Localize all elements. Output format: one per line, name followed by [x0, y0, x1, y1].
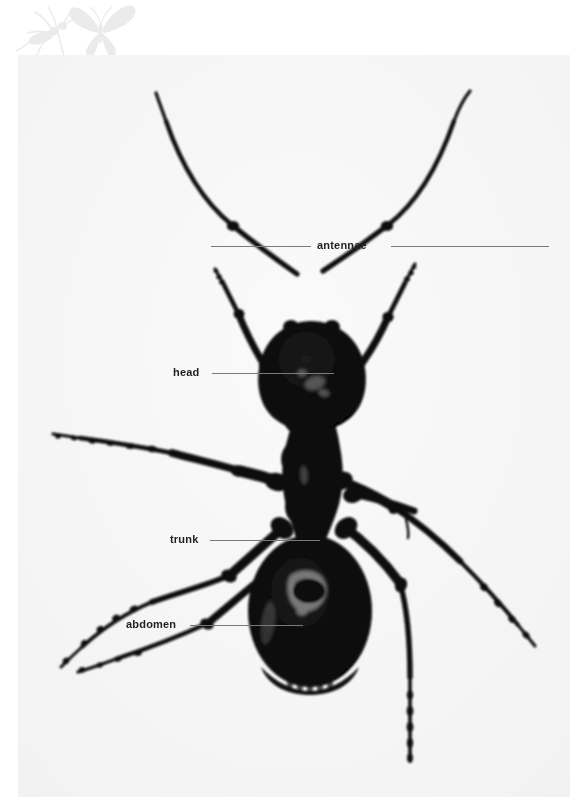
antennae-leader-line-right: [391, 246, 549, 247]
trunk-leader-line: [210, 540, 320, 541]
head-leader-line: [212, 373, 334, 374]
abdomen-leader-line: [190, 625, 303, 626]
ant-specimen-photograph: [18, 55, 570, 797]
antennae-leader-line-left: [211, 246, 311, 247]
label-abdomen: abdomen: [126, 619, 176, 630]
insect-silhouette-watermark: [8, 0, 138, 58]
page-root: antennae head trunk abdomen: [0, 0, 587, 811]
butterfly-silhouette-icon: [69, 5, 135, 56]
label-trunk: trunk: [170, 534, 199, 545]
label-antennae: antennae: [317, 240, 367, 251]
specimen-photo-panel: antennae head trunk abdomen: [18, 55, 570, 797]
ant-silhouette-icon: [16, 7, 81, 56]
label-head: head: [173, 367, 199, 378]
